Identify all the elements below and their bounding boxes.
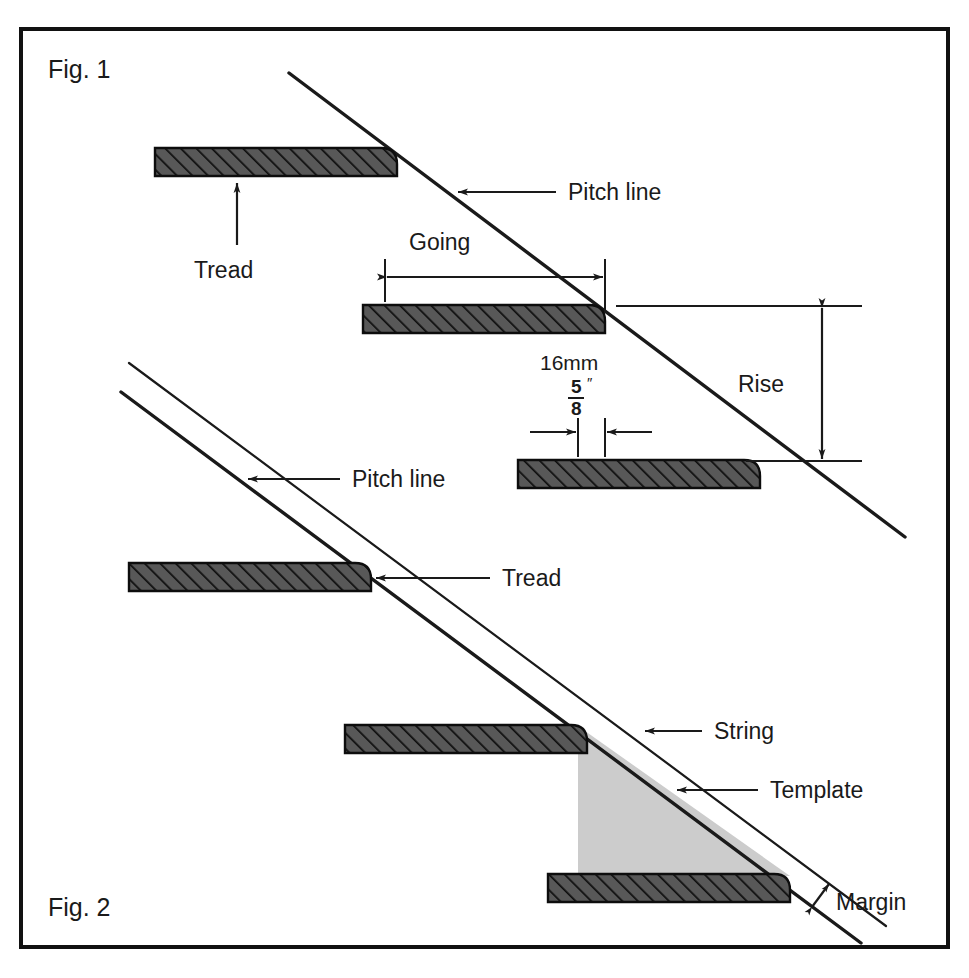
fig1-rise-label: Rise [738,371,784,397]
fig1-nosing-fraction-denominator: 8 [571,398,582,419]
fig2-tread-1 [129,563,371,591]
fig2-pitch-line-label: Pitch line [352,466,445,492]
fig1-title: Fig. 1 [48,55,111,83]
fig1-tread-1 [155,148,397,176]
fig1-nosing-inch-mark: ″ [587,374,593,391]
fig1-tread-2 [363,305,605,333]
fig1-tread-3 [518,460,760,488]
fig2-template-label: Template [770,777,863,803]
fig2-string-label: String [714,718,774,744]
fig2-tread-2 [345,725,587,753]
fig2-tread-label: Tread [502,565,561,591]
fig2-margin-label: Margin [836,889,906,915]
fig1-tread-label: Tread [194,257,253,283]
stair-geometry-diagram: Tread Pitch line Going Rise 16mm 5 8 ″ [0,0,969,978]
fig1-going-label: Going [409,229,470,255]
fig1-pitch-line-label: Pitch line [568,179,661,205]
diagram-page: Tread Pitch line Going Rise 16mm 5 8 ″ [0,0,969,978]
fig2-tread-3 [548,874,790,902]
fig1-nosing-metric-label: 16mm [540,351,598,374]
fig2-title: Fig. 2 [48,893,111,921]
fig1-nosing-fraction-numerator: 5 [571,376,582,397]
